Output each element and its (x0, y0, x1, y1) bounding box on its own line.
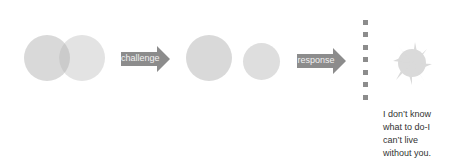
caption-line: I don’t know (383, 108, 453, 121)
splat-shape (392, 40, 434, 86)
barrier-square (363, 20, 368, 25)
barrier-square (363, 70, 368, 75)
caption-line: what to do-I (383, 121, 453, 134)
barrier-square (363, 45, 368, 50)
barrier-square (363, 57, 368, 62)
right-circle (243, 43, 280, 80)
caption-line: can’t live (383, 134, 453, 147)
caption-line: without you. (383, 147, 453, 160)
challenge-label: challenge (121, 52, 159, 65)
venn-circles-icon (22, 34, 108, 82)
response-label: response (297, 54, 335, 67)
caption-text: I don’t know what to do-I can’t live wit… (383, 108, 453, 160)
splat-icon (392, 40, 434, 86)
barrier-square (363, 95, 368, 100)
barrier-square (363, 32, 368, 37)
response-arrow: response (297, 48, 347, 74)
left-circle (186, 35, 232, 81)
challenge-arrow: challenge (121, 46, 171, 72)
overlapping-circles (22, 34, 108, 82)
barrier-square (363, 82, 368, 87)
